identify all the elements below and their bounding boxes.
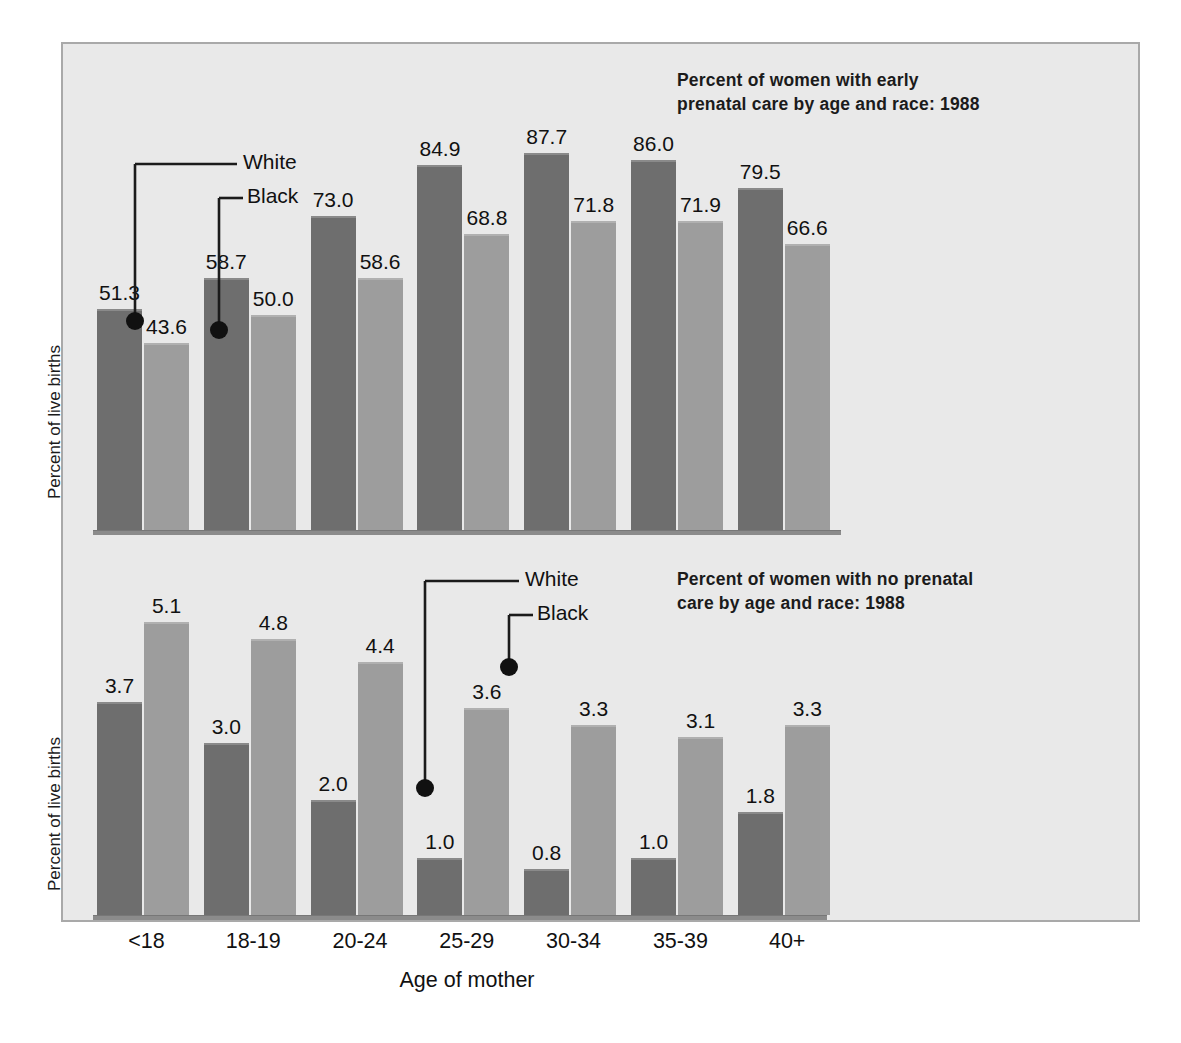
bar-value-label: 3.1 [668, 709, 733, 733]
bar-value-label: 58.6 [348, 250, 413, 274]
callout-black-top: Black [215, 190, 335, 350]
bar-black-30-34 [571, 221, 616, 530]
bar-white-35-39 [631, 858, 676, 916]
bar-value-label: 3.3 [775, 697, 840, 721]
bar-group: 86.071.9 [627, 62, 734, 530]
x-axis-line-top [93, 530, 841, 535]
bar-value-label: 86.0 [621, 132, 686, 156]
bar-white-18-19 [204, 743, 249, 916]
bar-white-30-34 [524, 869, 569, 915]
bar-black-20-24 [358, 662, 403, 915]
x-axis-title: Age of mother [93, 968, 841, 993]
bar-black-<18 [144, 343, 189, 530]
bar-value-label: 0.8 [514, 841, 579, 865]
bar-group: 2.04.4 [307, 559, 414, 915]
bar-white-25-29 [417, 858, 462, 916]
chart-early-prenatal-care: Percent of women with early prenatal car… [61, 44, 1140, 549]
bar-value-label: 84.9 [407, 137, 472, 161]
bar-black-18-19 [251, 639, 296, 915]
x-tick-35-39: 35-39 [627, 929, 734, 957]
bar-black-35-39 [678, 737, 723, 915]
bar-value-label: 87.7 [514, 125, 579, 149]
x-tick-40+: 40+ [734, 929, 841, 957]
x-tick-30-34: 30-34 [520, 929, 627, 957]
bar-group: 1.83.3 [734, 559, 841, 915]
callout-black-label-top: Black [247, 184, 298, 208]
bar-value-label: 1.8 [728, 784, 793, 808]
x-tick-18-19: 18-19 [200, 929, 307, 957]
bar-black-<18 [144, 622, 189, 915]
bar-value-label: 5.1 [134, 594, 199, 618]
bar-black-40+ [785, 244, 830, 530]
bar-group: 84.968.8 [413, 62, 520, 530]
bar-group: 3.04.8 [200, 559, 307, 915]
callout-black-bottom: Black [505, 607, 625, 687]
bar-value-label: 4.8 [241, 611, 306, 635]
callout-white-label-bottom: White [525, 567, 579, 591]
bar-white-20-24 [311, 800, 356, 915]
bar-value-label: 3.7 [87, 674, 152, 698]
x-tick-20-24: 20-24 [307, 929, 414, 957]
bar-white-<18 [97, 702, 142, 915]
x-axis-line-bottom [93, 915, 827, 920]
x-axis-ticks: <1818-1920-2425-2930-3435-3940+ [93, 929, 841, 957]
bar-black-25-29 [464, 234, 509, 530]
bar-value-label: 2.0 [301, 772, 366, 796]
x-tick-<18: <18 [93, 929, 200, 957]
bar-value-label: 1.0 [621, 830, 686, 854]
bar-value-label: 71.8 [561, 193, 626, 217]
bar-value-label: 71.9 [668, 193, 733, 217]
bar-group: 1.03.1 [627, 559, 734, 915]
bar-value-label: 1.0 [407, 830, 472, 854]
bar-black-40+ [785, 725, 830, 915]
bar-value-label: 4.4 [348, 634, 413, 658]
bar-black-35-39 [678, 221, 723, 530]
x-tick-25-29: 25-29 [413, 929, 520, 957]
bar-white-<18 [97, 309, 142, 530]
bar-group: 79.566.6 [734, 62, 841, 530]
bar-group: 87.771.8 [520, 62, 627, 530]
bar-value-label: 68.8 [454, 206, 519, 230]
y-axis-label-bottom: Percent of live births [45, 737, 65, 891]
chart-no-prenatal-care: Percent of women with no prenatal care b… [61, 551, 1140, 922]
bar-value-label: 79.5 [728, 160, 793, 184]
bar-black-30-34 [571, 725, 616, 915]
bar-group: 3.75.1 [93, 559, 200, 915]
callout-white-label-top: White [243, 150, 297, 174]
bar-value-label: 66.6 [775, 216, 840, 240]
plot-area-top: 51.343.658.750.073.058.684.968.887.771.8… [93, 62, 841, 530]
plot-area-bottom: 3.75.13.04.82.04.41.03.60.83.31.03.11.83… [93, 559, 841, 915]
bar-black-20-24 [358, 278, 403, 530]
callout-black-label-bottom: Black [537, 601, 588, 625]
figure-sheet: Percent of women with early prenatal car… [0, 0, 1181, 1043]
bar-value-label: 3.0 [194, 715, 259, 739]
bar-white-40+ [738, 812, 783, 916]
y-axis-label-top: Percent of live births [45, 345, 65, 499]
